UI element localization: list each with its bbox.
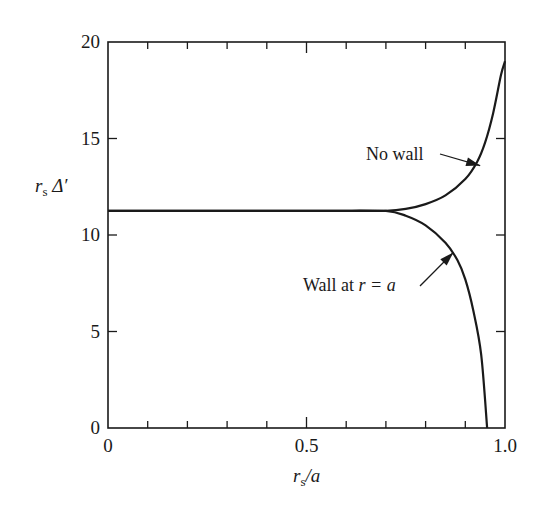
y-label-rest: Δ′ (47, 175, 68, 196)
annotation-wall: Wall at r = a (303, 275, 396, 295)
y-tick-label: 10 (81, 224, 100, 245)
y-tick-label: 0 (91, 417, 101, 438)
plot-border (108, 42, 505, 428)
x-tick-label: 0.5 (295, 435, 319, 456)
x-label-rest: /a (304, 465, 320, 486)
curve-no-wall (108, 61, 505, 211)
y-tick-label: 5 (91, 321, 101, 342)
y-axis-label: rs Δ′ (35, 175, 68, 199)
y-tick-label: 20 (81, 31, 100, 52)
annotation-wall-math: r = a (359, 275, 396, 295)
svg-text:rs/a: rs/a (293, 465, 320, 489)
x-tick-label: 1.0 (493, 435, 517, 456)
y-tick-label: 15 (81, 128, 100, 149)
curve-wall-at-r-a (108, 211, 487, 428)
svg-text:rs Δ′: rs Δ′ (35, 175, 68, 199)
chart: 0510152000.51.0 No wall Wall at r = a rs… (0, 0, 552, 522)
annotation-no-wall: No wall (366, 144, 424, 164)
axis-tick-labels: 0510152000.51.0 (81, 31, 517, 456)
annotations: No wall Wall at r = a (303, 144, 480, 295)
x-axis-label: rs/a (293, 465, 320, 489)
data-curves (108, 61, 505, 428)
x-tick-label: 0 (103, 435, 113, 456)
axis-ticks (108, 42, 505, 428)
annotation-wall-prefix: Wall at (303, 275, 359, 295)
plot-frame (108, 42, 505, 428)
